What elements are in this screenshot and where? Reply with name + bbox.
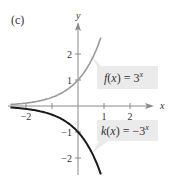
- y-tick-label: 1: [67, 75, 72, 86]
- f-label: f(x) = 3x: [104, 70, 143, 85]
- axes: [8, 22, 154, 175]
- x-tick-label: 2: [128, 111, 133, 122]
- x-tick-label: 1: [102, 111, 107, 122]
- f-curve: [10, 38, 101, 105]
- y-tick-label: −2: [61, 153, 72, 164]
- x-axis-label: x: [159, 100, 165, 111]
- x-tick-label: −2: [21, 111, 32, 122]
- y-tick-label: −1: [61, 127, 72, 138]
- k-label: k(x) = −3x: [101, 123, 149, 138]
- y-tick-label: 2: [67, 49, 72, 60]
- function-graph: −212−2−112xyf(x) = 3xk(x) = −3x: [0, 0, 174, 188]
- y-axis-label: y: [75, 10, 81, 21]
